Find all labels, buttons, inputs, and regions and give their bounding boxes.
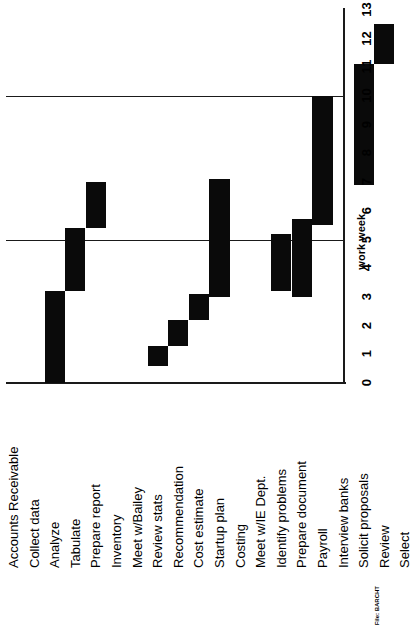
category-label-cost-estimate: Cost estimate xyxy=(192,489,205,568)
bar-meet-w-ie-dept xyxy=(271,234,291,291)
tick-label-7: 7 xyxy=(360,167,373,197)
bar-solicit-proposals xyxy=(374,24,394,64)
value-axis-title: work week xyxy=(355,214,367,270)
tick-label-10: 10 xyxy=(360,81,373,111)
category-label-review: Review xyxy=(378,525,391,568)
bar-identify-problems xyxy=(292,219,312,296)
bar-tabulate xyxy=(86,182,106,228)
category-label-analyze: Analyze xyxy=(48,522,61,568)
bar-review-stats xyxy=(168,320,188,346)
bar-collect-data xyxy=(45,291,65,383)
bar-recommendation xyxy=(189,294,209,320)
category-label-prepare-report: Prepare report xyxy=(89,484,102,568)
bar-meet-w-bailey xyxy=(148,346,168,366)
category-label-collect-data: Collect data xyxy=(28,499,41,568)
category-label-inventory: Inventory xyxy=(110,515,123,568)
category-label-meet-w-bailey: Meet w/Bailey xyxy=(131,487,144,568)
category-label-recommendation: Recommendation xyxy=(172,466,185,568)
tick-label-9: 9 xyxy=(360,109,373,139)
file-note: File: BARCHT xyxy=(374,586,380,625)
category-label-costing: Costing xyxy=(234,524,247,568)
category-label-group: Accounts ReceivableCollect dataAnalyzeTa… xyxy=(0,400,383,588)
tick-label-0: 0 xyxy=(360,368,373,398)
bar-prepare-document xyxy=(312,96,332,225)
gantt-chart: 012345678910111213 work week xyxy=(0,0,383,400)
category-label-startup-plan: Startup plan xyxy=(213,498,226,568)
value-axis-line xyxy=(343,8,345,384)
category-label-review-stats: Review stats xyxy=(151,494,164,568)
tick-label-12: 12 xyxy=(360,23,373,53)
category-label-select: Select xyxy=(398,532,411,568)
category-label-meet-w-ie-dept: Meet w/IE Dept. xyxy=(254,476,267,568)
category-label-tabulate: Tabulate xyxy=(69,519,82,568)
category-label-prepare-document: Prepare document xyxy=(295,461,308,568)
category-label-accounts-receivable: Accounts Receivable xyxy=(7,447,20,568)
category-label-payroll: Payroll xyxy=(316,528,329,568)
bar-cost-estimate xyxy=(209,179,229,297)
bar-analyze xyxy=(65,228,85,291)
category-label-interview-banks: Interview banks xyxy=(337,478,350,568)
category-label-solicit-proposals: Solicit proposals xyxy=(357,473,370,568)
gridline-week-10 xyxy=(6,96,345,97)
tick-label-11: 11 xyxy=(360,52,373,82)
tick-label-2: 2 xyxy=(360,310,373,340)
category-label-identify-problems: Identify problems xyxy=(275,469,288,568)
tick-label-3: 3 xyxy=(360,281,373,311)
tick-label-13: 13 xyxy=(360,0,373,24)
tick-label-1: 1 xyxy=(360,339,373,369)
tick-label-8: 8 xyxy=(360,138,373,168)
